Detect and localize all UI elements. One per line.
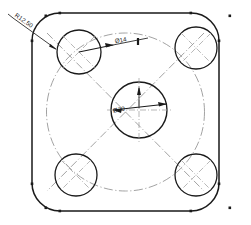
node-dot-bottom-right-corner: [229, 207, 232, 210]
node-dot-right-top-tangent: [218, 40, 221, 43]
center-hole-dimension-label: Ø30: [112, 104, 126, 113]
radius-leader-arrowhead: [49, 44, 57, 50]
center-hole-vertical-arrowhead: [137, 86, 141, 95]
technical-drawing-canvas: R12.50 Ø14 Ø30: [0, 0, 251, 225]
corner-hole-dim-arrowhead: [105, 43, 114, 48]
node-dot-bottom-right-tangent: [190, 210, 193, 213]
node-dot-bottom-left-corner: [45, 207, 48, 210]
node-dot-bottom-left-tangent: [59, 210, 62, 213]
node-dot-top-left-tangent: [59, 12, 62, 15]
node-dot-left-top-tangent: [31, 40, 34, 43]
node-dot-top-right-tangent: [190, 12, 193, 15]
node-dot-right-bottom-tangent: [218, 183, 221, 186]
node-dot-top-right-corner: [229, 15, 232, 18]
node-dot-top-left-corner: [45, 15, 48, 18]
node-dot-left-bottom-tangent: [31, 183, 34, 186]
engineering-drawing: R12.50 Ø14 Ø30: [0, 0, 251, 225]
radius-leader-tail: [8, 14, 13, 18]
